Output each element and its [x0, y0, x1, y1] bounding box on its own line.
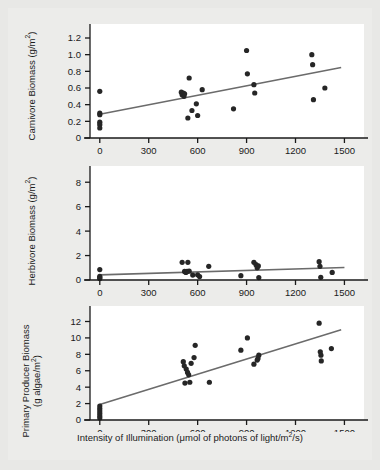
y-tick-label: 0.6 — [68, 82, 81, 93]
ylabel-exponent: 2 — [30, 358, 37, 362]
y-tick-label: 6 — [76, 201, 81, 212]
x-tick-label: 900 — [239, 145, 255, 156]
panel-herbivore-ylabel-wrap: Herbivore Biomass (g/m2) — [8, 160, 54, 302]
x-tick-label: 1500 — [334, 145, 355, 156]
y-tick-label: 12 — [70, 316, 81, 327]
y-tick-label: 0 — [76, 132, 81, 143]
y-tick-label: 2 — [76, 250, 81, 261]
y-tick-label: 4 — [76, 382, 81, 393]
ylabel-text: Herbivore Biomass (g/m — [26, 184, 37, 286]
xlabel-suffix: /s) — [292, 432, 303, 443]
x-axis-label: Intensity of Illumination (μmol of photo… — [8, 432, 372, 443]
panel-primary-producer-plot: 024681012030060090012001500 — [8, 302, 372, 432]
x-tick-label: 600 — [190, 287, 206, 298]
x-tick-label: 0 — [97, 145, 102, 156]
panel-carnivore-plot: 00.20.40.60.81.01.2030060090012001500 — [8, 12, 372, 160]
y-tick-label: 8 — [76, 177, 81, 188]
y-tick-label: 0.4 — [68, 99, 81, 110]
ylabel-exponent: 2 — [24, 180, 31, 184]
y-tick-label: 8 — [76, 349, 81, 360]
ylabel-subline: (g algae/m2) — [31, 325, 42, 438]
y-tick-label: 0.8 — [68, 66, 81, 77]
y-tick-label: 6 — [76, 365, 81, 376]
x-tick-label: 0 — [97, 287, 102, 298]
x-tick-label: 1200 — [285, 145, 306, 156]
x-tick-label: 1500 — [334, 287, 355, 298]
y-tick-label: 2 — [76, 398, 81, 409]
x-tick-label: 300 — [141, 287, 157, 298]
x-tick-label: 900 — [239, 287, 255, 298]
panel-herbivore-plot: 02468030060090012001500 — [8, 160, 372, 302]
y-tick-label: 0.2 — [68, 116, 81, 127]
panel-carnivore-biomass: Carnivore Biomass (g/m2) 00.20.40.60.81.… — [8, 12, 372, 160]
x-tick-label: 300 — [141, 145, 157, 156]
ylabel-tail: ) — [26, 177, 37, 180]
ylabel-exponent: 2 — [24, 35, 31, 39]
y-tick-label: 0 — [76, 414, 81, 425]
figure-inner: Carnivore Biomass (g/m2) 00.20.40.60.81.… — [8, 8, 372, 460]
x-tick-label: 600 — [190, 145, 206, 156]
ylabel-tail: ) — [31, 355, 42, 358]
y-tick-label: 4 — [76, 226, 81, 237]
xlabel-prefix: Intensity of Illumination (μmol of photo… — [77, 432, 288, 443]
ylabel-tail: ) — [26, 32, 37, 35]
panel-carnivore-ylabel: Carnivore Biomass (g/m2) — [26, 32, 37, 141]
ylabel-text: Carnivore Biomass (g/m — [26, 39, 37, 141]
figure-container: Carnivore Biomass (g/m2) 00.20.40.60.81.… — [0, 0, 380, 470]
panel-herbivore-biomass: Herbivore Biomass (g/m2) 024680300600900… — [8, 160, 372, 302]
y-tick-label: 0 — [76, 274, 81, 285]
y-tick-label: 1.2 — [68, 32, 81, 43]
panel-herbivore-ylabel: Herbivore Biomass (g/m2) — [26, 177, 37, 286]
panel-primary-producer-ylabel: Primary Producer Biomass (g algae/m2) — [20, 325, 42, 438]
y-tick-label: 10 — [70, 332, 81, 343]
panel-carnivore-ylabel-wrap: Carnivore Biomass (g/m2) — [8, 12, 54, 160]
ylabel-text: Primary Producer Biomass — [20, 325, 31, 438]
y-tick-label: 1.0 — [68, 49, 81, 60]
ylabel-sub-text: (g algae/m — [31, 362, 42, 407]
x-tick-label: 1200 — [285, 287, 306, 298]
